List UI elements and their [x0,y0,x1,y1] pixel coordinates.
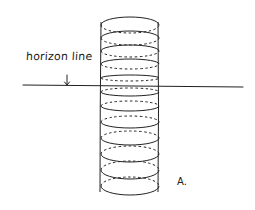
arrow-icon [65,75,70,85]
horizon-line [23,85,243,87]
ellipse-lower-arc [101,38,159,45]
ellipse-lower-arc [101,106,159,111]
ellipse-upper-arc [101,59,159,64]
ellipse-upper-arc [101,131,159,138]
ellipse-upper-arc [101,31,159,38]
ellipse-lower-arc [101,25,159,33]
ellipse-lower-arc [101,170,159,179]
ellipse-lower-arc [101,138,159,145]
ellipse-upper-arc [101,146,159,154]
ellipse-lower-arc [101,122,159,128]
column-left-edge [100,22,101,192]
figure-label: A. [177,176,187,187]
ellipse-lower-arc [101,64,159,69]
ellipse-upper-arc [101,116,159,122]
ellipse-upper-arc [101,177,159,186]
ellipse-lower-arc [101,78,159,81]
ellipse-lower-arc [101,51,159,57]
ellipse-lower-arc [101,186,159,195]
ellipse-lower-arc [101,92,159,96]
ellipse-upper-arc [101,45,159,51]
sketch-canvas [0,0,255,210]
ellipse-upper-arc [101,101,159,106]
ellipse-upper-arc [101,88,159,92]
ellipse-upper-arc [101,75,159,78]
horizon-line-label: horizon line [26,50,93,63]
ellipse-upper-arc [101,17,159,25]
